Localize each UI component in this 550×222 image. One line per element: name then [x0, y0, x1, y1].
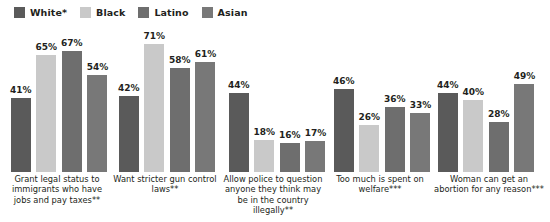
bar-rect	[36, 55, 56, 172]
bar-rect	[438, 93, 458, 172]
legend-item-label: Asian	[218, 7, 248, 18]
bar-value-label: 17%	[305, 128, 327, 139]
bar-latino[interactable]: 28%	[488, 24, 510, 172]
bar-asian[interactable]: 17%	[305, 24, 327, 172]
bar-rect	[11, 98, 31, 172]
legend-swatch-icon	[14, 7, 25, 18]
bar-black[interactable]: 71%	[144, 24, 166, 172]
bar-latino[interactable]: 16%	[279, 24, 301, 172]
legend-item-asian[interactable]: Asian	[202, 7, 248, 18]
legend-item-label: Latino	[154, 7, 188, 18]
bar-rect	[334, 89, 354, 172]
bar-rect	[229, 93, 249, 172]
bar-value-label: 36%	[384, 94, 406, 105]
legend-item-label: White*	[30, 7, 67, 18]
bar-value-label: 49%	[514, 71, 536, 82]
bar-black[interactable]: 65%	[36, 24, 58, 172]
bar-rect	[170, 68, 190, 172]
category-caption: Woman can get an abortion for any reason…	[430, 174, 548, 195]
bar-latino[interactable]: 67%	[61, 24, 83, 172]
category-caption: Grant legal status to immigrants who hav…	[2, 174, 112, 205]
bar-rect	[254, 140, 274, 172]
bar-value-label: 26%	[359, 112, 381, 123]
bar-asian[interactable]: 61%	[195, 24, 217, 172]
bar-group: 46%26%36%33%	[333, 24, 433, 172]
legend-swatch-icon	[202, 7, 213, 18]
bar-latino[interactable]: 36%	[384, 24, 406, 172]
bar-black[interactable]: 18%	[254, 24, 276, 172]
bar-value-label: 67%	[61, 38, 83, 49]
bar-asian[interactable]: 49%	[514, 24, 536, 172]
bar-rect	[463, 100, 483, 172]
bar-value-label: 44%	[437, 80, 459, 91]
bar-group: 44%18%16%17%	[228, 24, 328, 172]
bar-value-label: 42%	[118, 83, 140, 94]
legend-item-latino[interactable]: Latino	[138, 7, 188, 18]
bar-value-label: 58%	[169, 55, 191, 66]
bar-rect	[410, 113, 430, 172]
bar-value-label: 18%	[254, 127, 276, 138]
legend-swatch-icon	[138, 7, 149, 18]
grouped-bar-chart: White*BlackLatinoAsian 41%65%67%54%42%71…	[0, 0, 550, 222]
bar-asian[interactable]: 54%	[87, 24, 109, 172]
bar-value-label: 61%	[195, 49, 217, 60]
bar-rect	[144, 44, 164, 172]
bar-rect	[195, 62, 215, 172]
bar-rect	[280, 143, 300, 172]
bar-rect	[62, 51, 82, 172]
legend-item-black[interactable]: Black	[80, 7, 125, 18]
bar-rect	[514, 84, 534, 172]
bar-value-label: 28%	[488, 109, 510, 120]
bar-value-label: 54%	[87, 62, 109, 73]
bar-asian[interactable]: 33%	[410, 24, 432, 172]
bar-latino[interactable]: 58%	[169, 24, 191, 172]
bar-group: 42%71%58%61%	[118, 24, 218, 172]
bar-value-label: 33%	[410, 100, 432, 111]
category-caption: Allow police to question anyone they thi…	[218, 174, 328, 216]
bar-value-label: 46%	[333, 76, 355, 87]
bar-rect	[87, 75, 107, 172]
bar-rect	[119, 96, 139, 172]
bar-white[interactable]: 44%	[228, 24, 250, 172]
bar-value-label: 65%	[36, 42, 58, 53]
bar-black[interactable]: 40%	[463, 24, 485, 172]
bar-white[interactable]: 44%	[437, 24, 459, 172]
category-caption: Want stricter gun control laws**	[110, 174, 220, 195]
bar-white[interactable]: 41%	[10, 24, 32, 172]
plot-area: 41%65%67%54%42%71%58%61%44%18%16%17%46%2…	[0, 24, 550, 172]
bar-value-label: 40%	[463, 87, 485, 98]
legend-swatch-icon	[80, 7, 91, 18]
category-caption: Too much is spent on welfare***	[325, 174, 435, 195]
bar-value-label: 16%	[279, 130, 301, 141]
bar-white[interactable]: 42%	[118, 24, 140, 172]
bar-black[interactable]: 26%	[359, 24, 381, 172]
legend-item-white[interactable]: White*	[14, 7, 67, 18]
legend-item-label: Black	[96, 7, 125, 18]
bar-value-label: 71%	[144, 31, 166, 42]
bar-white[interactable]: 46%	[333, 24, 355, 172]
bar-value-label: 41%	[10, 85, 32, 96]
bar-rect	[359, 125, 379, 172]
category-captions: Grant legal status to immigrants who hav…	[0, 174, 550, 222]
chart-legend: White*BlackLatinoAsian	[14, 5, 248, 19]
bar-group: 41%65%67%54%	[10, 24, 110, 172]
bar-rect	[489, 122, 509, 172]
bar-group: 44%40%28%49%	[437, 24, 540, 172]
bar-value-label: 44%	[228, 80, 250, 91]
bar-rect	[305, 141, 325, 172]
bar-rect	[385, 107, 405, 172]
